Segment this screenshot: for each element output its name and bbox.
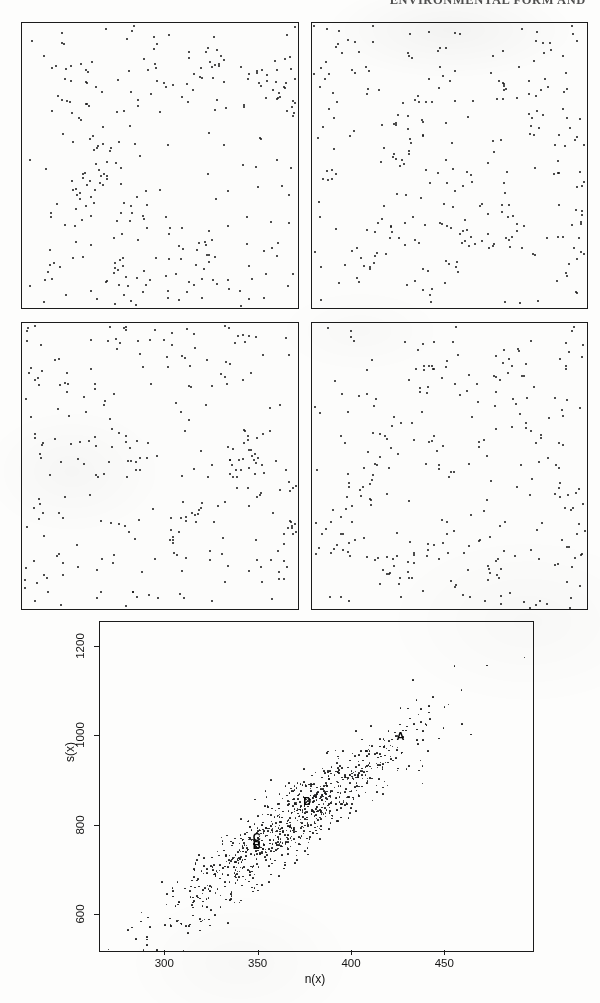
scatter-point (211, 886, 213, 888)
point-pattern-dot (47, 271, 49, 273)
point-pattern-dot (217, 505, 219, 507)
scatter-point (354, 786, 356, 788)
point-pattern-dot (270, 559, 272, 561)
point-pattern-dot (376, 252, 378, 254)
point-pattern-dot (29, 159, 31, 161)
point-pattern-dot (519, 413, 521, 415)
point-pattern-dot (431, 440, 433, 442)
scatter-point (432, 696, 434, 698)
scatter-point (347, 796, 349, 798)
point-pattern-dot (243, 429, 245, 431)
point-pattern-dot (109, 418, 111, 420)
point-pattern-dot (558, 467, 560, 469)
scatter-point (267, 830, 269, 832)
point-pattern-dot (204, 241, 206, 243)
point-pattern-dot (112, 562, 114, 564)
point-pattern-dot (507, 216, 509, 218)
scatter-point (296, 859, 298, 861)
point-pattern-dot (500, 139, 502, 141)
scatter-point (219, 864, 221, 866)
point-pattern-dot (182, 248, 184, 250)
point-pattern-dot (315, 522, 317, 524)
point-pattern-dot (313, 73, 315, 75)
point-pattern-dot (427, 270, 429, 272)
scatter-point (299, 801, 301, 803)
point-pattern-dot (564, 145, 566, 147)
point-pattern-dot (285, 82, 287, 84)
point-pattern-dot (111, 446, 113, 448)
point-pattern-dot (146, 227, 148, 229)
scatter-point (234, 872, 236, 874)
point-pattern-dot (64, 78, 66, 80)
point-pattern-dot (471, 416, 473, 418)
scatter-point (296, 803, 298, 805)
point-pattern-dot (96, 569, 98, 571)
point-pattern-dot (359, 489, 361, 491)
point-pattern-dot (278, 578, 280, 580)
point-pattern-dot (31, 40, 33, 42)
point-pattern-dot (497, 558, 499, 560)
point-pattern-dot (379, 583, 381, 585)
point-pattern-dot (257, 457, 259, 459)
point-pattern-dot (508, 204, 510, 206)
scatter-point (396, 749, 398, 751)
point-pattern-dot (487, 565, 489, 567)
point-pattern-dot (220, 373, 222, 375)
scatter-point (324, 772, 326, 774)
point-pattern-dot (263, 297, 265, 299)
point-pattern-dot (251, 278, 253, 280)
point-pattern-dot (272, 512, 274, 514)
point-pattern-dot (582, 344, 584, 346)
scatter-point (239, 843, 241, 845)
scatter-point (279, 793, 281, 795)
point-pattern-dot (399, 165, 401, 167)
scatter-point (327, 772, 329, 774)
point-pattern-dot (566, 399, 568, 401)
point-pattern-dot (277, 242, 279, 244)
point-pattern-dot (205, 51, 207, 53)
scatter-point (224, 881, 226, 883)
point-pattern-dot (427, 543, 429, 545)
point-pattern-dot (248, 73, 250, 75)
point-pattern-dot (411, 57, 413, 59)
point-pattern-dot (454, 190, 456, 192)
scatter-point (147, 917, 149, 919)
scatter-point (229, 899, 231, 901)
point-pattern-dot (540, 434, 542, 436)
point-pattern-dot (90, 339, 92, 341)
point-pattern-dot (70, 80, 72, 82)
point-pattern-dot (467, 116, 469, 118)
scatter-point (406, 726, 408, 728)
point-pattern-dot (134, 143, 136, 145)
point-pattern-dot (274, 60, 276, 62)
point-pattern-dot (66, 372, 68, 374)
point-pattern-dot (518, 66, 520, 68)
point-pattern-dot (366, 369, 368, 371)
scatter-point (422, 739, 424, 741)
scatter-point (198, 886, 200, 888)
scatter-point (376, 791, 378, 793)
point-pattern-dot (285, 469, 287, 471)
point-pattern-dot (571, 224, 573, 226)
scatter-point (271, 821, 273, 823)
scatter-point (257, 815, 259, 817)
point-pattern-dot (454, 32, 456, 34)
point-pattern-dot (62, 133, 64, 135)
scatter-point (316, 792, 318, 794)
point-pattern-dot (336, 101, 338, 103)
point-pattern-dot (226, 383, 228, 385)
point-pattern-dot (82, 173, 84, 175)
y-axis-tick (94, 914, 99, 915)
point-pattern-dot (441, 223, 443, 225)
scatter-point (202, 901, 204, 903)
point-pattern-dot (372, 41, 374, 43)
scatter-point (242, 847, 244, 849)
scatter-point (244, 833, 246, 835)
point-pattern-dot (366, 556, 368, 558)
point-pattern-dot (431, 365, 433, 367)
point-pattern-dot (397, 114, 399, 116)
scatter-point (303, 830, 305, 832)
scatter-point (386, 748, 388, 750)
point-pattern-dot (459, 394, 461, 396)
point-pattern-dot (501, 204, 503, 206)
